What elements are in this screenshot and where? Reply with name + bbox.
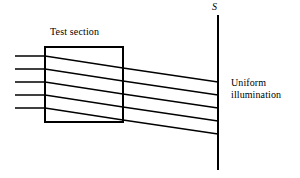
uniform-illumination-label: Uniform illumination <box>231 77 281 101</box>
ray-diagram-figure: Test section S Uniform illumination <box>0 0 300 178</box>
illumination-label-line-2: illumination <box>231 89 281 101</box>
test-section-label: Test section <box>50 26 99 38</box>
illumination-label-line-1: Uniform <box>231 77 281 89</box>
screen-label: S <box>212 1 217 13</box>
